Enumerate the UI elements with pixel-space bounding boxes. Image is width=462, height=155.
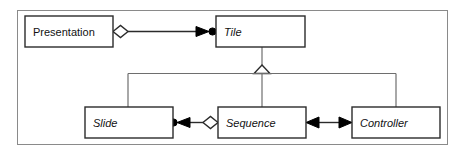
class-box-slide[interactable]: Slide	[85, 107, 173, 138]
class-box-sequence[interactable]: Sequence	[218, 107, 306, 138]
class-name-sequence: Sequence	[226, 117, 276, 129]
class-name-slide: Slide	[93, 117, 117, 129]
class-name-controller: Controller	[360, 117, 409, 129]
class-name-presentation: Presentation	[33, 26, 95, 38]
diagram-canvas: Presentation Tile Slide Sequence Control…	[0, 0, 462, 155]
class-name-tile: Tile	[224, 26, 242, 38]
class-box-presentation[interactable]: Presentation	[25, 16, 113, 47]
class-box-controller[interactable]: Controller	[352, 107, 440, 138]
class-box-tile[interactable]: Tile	[216, 16, 305, 47]
filled-dot-icon	[209, 28, 216, 35]
uml-class-diagram: Presentation Tile Slide Sequence Control…	[0, 0, 462, 155]
